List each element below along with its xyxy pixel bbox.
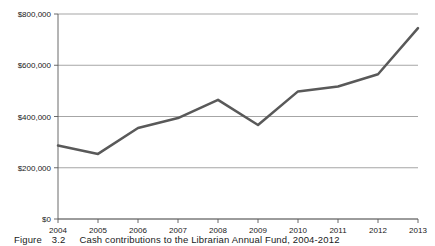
gridlines [58,14,418,219]
caption-text: Cash contributions to the Librarian Annu… [80,234,340,245]
series-line [58,28,418,154]
y-axis-tick-label: $200,000 [18,163,51,172]
figure-container: $0$200,000$400,000$600,000$800,000 20042… [0,0,435,246]
y-axis-tick-label: $600,000 [18,61,51,70]
data-series [58,28,418,154]
figure-caption: Figure3.2Cash contributions to the Libra… [0,234,435,246]
chart-canvas [0,0,435,232]
line-chart: $0$200,000$400,000$600,000$800,000 20042… [0,0,435,232]
y-axis-tick-label: $800,000 [18,10,51,19]
caption-number: 3.2 [52,234,66,245]
y-axis-tick-label: $0 [42,215,51,224]
axis-ticks [54,14,418,223]
y-axis-tick-label: $400,000 [18,112,51,121]
caption-label: Figure [14,234,42,245]
